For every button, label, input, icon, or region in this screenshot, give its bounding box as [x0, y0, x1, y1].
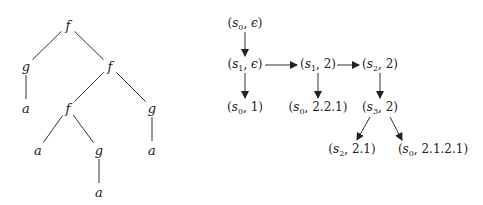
run-node: (s2, 2) — [362, 58, 398, 73]
run-node: (s0, 2.2.1) — [289, 101, 348, 116]
run-node: (s1, ϵ) — [227, 58, 262, 73]
tree-node-a: a — [95, 186, 103, 199]
tree-edge — [73, 115, 93, 143]
tree-node-g: g — [148, 102, 156, 115]
run-node: (s1, 2) — [300, 58, 336, 73]
run-edge-arrow — [357, 117, 370, 140]
tree-edge — [74, 31, 103, 59]
tree-edge — [116, 72, 145, 101]
run-node: (s0, 1) — [227, 101, 263, 116]
tree-edge — [43, 115, 63, 142]
tree-edge — [74, 72, 103, 101]
tree-node-g: g — [95, 144, 103, 157]
run-node: (s0, 2.1.2.1) — [398, 143, 468, 158]
diagram-canvas: fgfafgagaa (s0, ϵ)(s1, ϵ)(s0, 1)(s1, 2)(… — [0, 0, 483, 205]
run-node: (s0, ϵ) — [227, 17, 262, 32]
tree-node-f: f — [66, 19, 71, 32]
tree-edge — [32, 31, 61, 59]
run-node: (s2, 2.1) — [328, 143, 375, 158]
tree-node-g: g — [22, 60, 30, 73]
tree-node-f: f — [66, 102, 71, 115]
run-edge-arrow — [390, 117, 402, 140]
tree-node-a: a — [22, 102, 30, 115]
tree-node-f: f — [108, 60, 113, 73]
tree-node-a: a — [148, 144, 156, 157]
run-node: (s3, 2) — [362, 101, 398, 116]
tree-node-a: a — [34, 144, 42, 157]
